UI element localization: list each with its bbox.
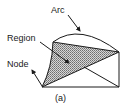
region-label: Region [7, 33, 36, 43]
figure-caption: (a) [55, 93, 66, 103]
node-pointer [32, 70, 42, 86]
node-label: Node [7, 59, 29, 69]
arc-pointer [68, 15, 80, 31]
diagonal-edge [84, 67, 119, 87]
graph-diagram: Arc Region Node (a) [0, 0, 131, 109]
arc-label: Arc [51, 5, 65, 15]
